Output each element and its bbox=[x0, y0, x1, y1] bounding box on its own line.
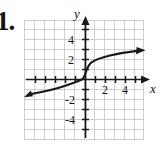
x-tick-label-4: 4 bbox=[122, 83, 128, 97]
x-tick-label-2: 2 bbox=[102, 83, 108, 97]
y-tick-label-4: 4 bbox=[68, 33, 74, 47]
y-tick-label-neg2: -2 bbox=[65, 93, 75, 107]
y-tick-label-neg4: -4 bbox=[65, 113, 75, 127]
y-axis-label: y bbox=[72, 6, 80, 21]
x-axis-label: x bbox=[149, 81, 156, 96]
figure-page: 1. bbox=[0, 0, 164, 147]
y-tick-label-2: 2 bbox=[68, 53, 74, 67]
coordinate-graph: y x 4 2 -2 -4 2 4 bbox=[0, 0, 164, 147]
